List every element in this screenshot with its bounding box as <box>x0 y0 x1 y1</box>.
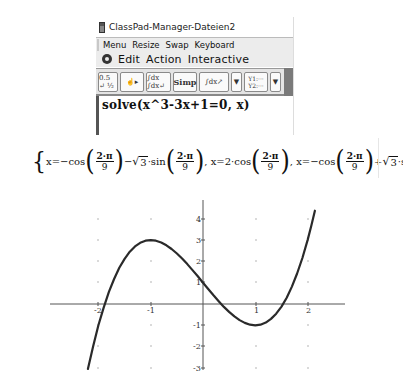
x-tick-label: -1 <box>147 306 155 315</box>
y-tick-label: -2 <box>193 342 201 351</box>
y-tick-label: 3 <box>196 236 201 245</box>
y-tick-label: -1 <box>193 321 201 330</box>
x-tick-label: 1 <box>254 306 259 315</box>
x-tick-label: -2 <box>94 306 102 315</box>
y-tick-label: 2 <box>196 257 201 266</box>
cubic-curve <box>88 211 315 369</box>
x-tick-label: 2 <box>306 306 311 315</box>
y-tick-label: -3 <box>193 364 201 373</box>
function-graph: -2 -1 1 2 4 3 2 1 -1 -2 -3 <box>0 0 403 387</box>
y-tick-label: 4 <box>196 215 201 224</box>
